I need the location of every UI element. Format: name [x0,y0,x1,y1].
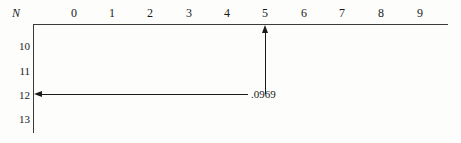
column-header-5: 5 [257,6,273,20]
vertical-axis-rule [33,24,34,133]
horizontal-axis-rule [33,24,448,25]
corner-label-n: N [12,6,20,20]
row-header-12: 12 [10,89,30,102]
column-header-4: 4 [219,6,235,20]
column-header-7: 7 [334,6,350,20]
row-header-13: 13 [10,113,30,126]
column-header-0: 0 [66,6,82,20]
column-header-1: 1 [104,6,120,20]
row-pointer-arrowhead-left-icon [34,91,42,97]
row-header-11: 11 [10,65,30,78]
row-header-10: 10 [10,40,30,53]
column-header-9: 9 [412,6,428,20]
column-pointer-shaft [265,32,266,94]
column-header-3: 3 [181,6,197,20]
lookup-table-figure: N 0 1 2 3 4 5 6 7 8 9 10 11 12 13 .0969 [0,0,461,143]
column-header-2: 2 [142,6,158,20]
row-pointer-shaft [41,94,248,95]
column-pointer-arrowhead-up-icon [262,25,268,33]
column-header-6: 6 [296,6,312,20]
column-header-8: 8 [373,6,389,20]
value-label: .0969 [251,88,276,101]
